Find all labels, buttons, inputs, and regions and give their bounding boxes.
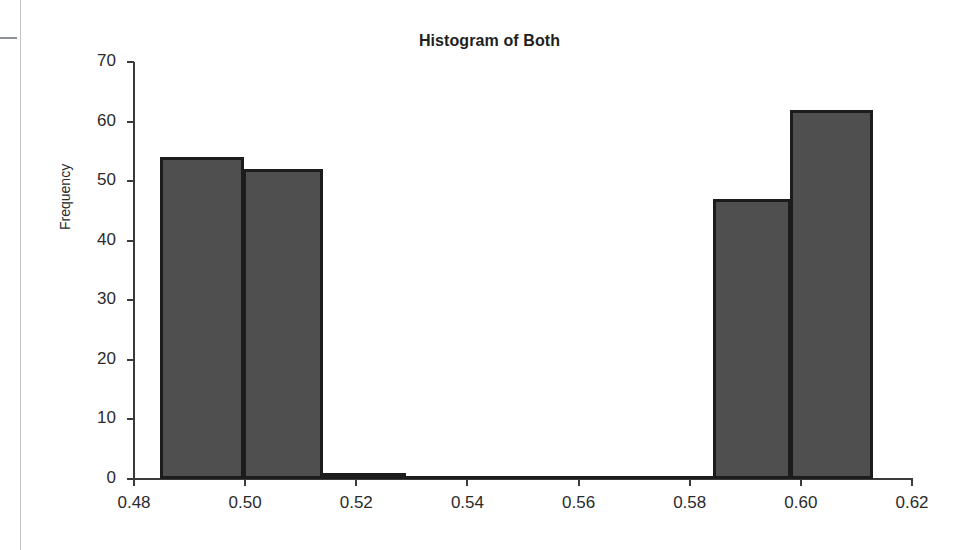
x-axis-tick xyxy=(133,479,135,486)
x-axis-tick-label: 0.58 xyxy=(673,493,706,513)
x-axis-tick-label: 0.56 xyxy=(562,493,595,513)
y-axis-tick-label: 30 xyxy=(97,289,116,309)
x-axis-tick xyxy=(800,479,802,486)
histogram-bar xyxy=(322,473,406,479)
y-axis-tick-label: 70 xyxy=(97,51,116,71)
x-axis-tick xyxy=(466,479,468,486)
x-axis-tick xyxy=(355,479,357,486)
plot-area: 0102030405060700.480.500.520.540.560.580… xyxy=(134,62,912,479)
x-axis-tick-label: 0.60 xyxy=(784,493,817,513)
histogram-bar xyxy=(160,157,244,479)
histogram-bar xyxy=(405,476,485,479)
histogram-bar xyxy=(563,476,643,479)
y-axis-tick-label: 20 xyxy=(97,349,116,369)
histogram-bar xyxy=(642,476,714,479)
y-axis-tick: 40 xyxy=(127,240,134,242)
histogram-bar xyxy=(790,110,873,479)
x-axis-tick-label: 0.48 xyxy=(117,493,150,513)
chart-title: Histogram of Both xyxy=(0,32,979,50)
histogram-bar xyxy=(243,169,323,479)
y-axis-tick-label: 10 xyxy=(97,408,116,428)
x-axis-tick-label: 0.62 xyxy=(895,493,928,513)
histogram-bar xyxy=(713,199,791,479)
x-axis-tick xyxy=(689,479,691,486)
y-axis-tick: 30 xyxy=(127,299,134,301)
chart-page: Histogram of Both Frequency 010203040506… xyxy=(0,0,979,550)
y-axis-title: Frequency xyxy=(57,164,73,230)
x-axis-tick xyxy=(911,479,913,486)
x-axis-tick xyxy=(244,479,246,486)
x-axis-tick-label: 0.50 xyxy=(229,493,262,513)
y-axis-tick-label: 40 xyxy=(97,230,116,250)
x-axis-tick-label: 0.54 xyxy=(451,493,484,513)
x-axis-tick xyxy=(578,479,580,486)
y-axis-tick: 60 xyxy=(127,121,134,123)
y-axis-tick-label: 0 xyxy=(107,468,116,488)
y-axis-tick-label: 50 xyxy=(97,170,116,190)
y-axis-tick-label: 60 xyxy=(97,111,116,131)
y-axis-tick: 70 xyxy=(127,61,134,63)
histogram-bar xyxy=(484,476,564,479)
y-axis-tick: 10 xyxy=(127,418,134,420)
y-axis-tick: 20 xyxy=(127,359,134,361)
y-axis-tick: 50 xyxy=(127,180,134,182)
scan-artifact-vertical-line xyxy=(20,0,21,550)
x-axis-tick-label: 0.52 xyxy=(340,493,373,513)
